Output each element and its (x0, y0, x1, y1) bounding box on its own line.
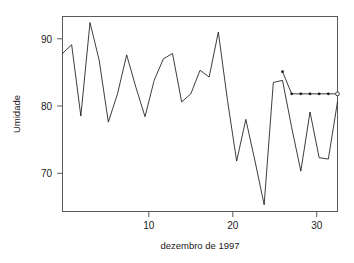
forecast-point-filled (327, 92, 330, 95)
forecast-point-filled (290, 92, 293, 95)
forecast-point-filled (318, 92, 321, 95)
forecast-point-filled (299, 92, 302, 95)
x-tick-label-30: 30 (311, 220, 323, 231)
x-axis-title: dezembro de 1997 (160, 240, 239, 251)
plot-background (0, 0, 354, 263)
forecast-point-filled (309, 92, 312, 95)
chart-figure: 90 80 70 10 20 30 dezembro de 1997 Umida… (0, 0, 354, 263)
umidade-time-series-plot: 90 80 70 10 20 30 dezembro de 1997 Umida… (0, 0, 354, 263)
x-tick-label-20: 20 (227, 220, 239, 231)
y-tick-label-80: 80 (41, 101, 53, 112)
x-tick-label-10: 10 (143, 220, 155, 231)
forecast-point-filled (281, 70, 284, 73)
y-axis-title: Umidade (11, 95, 22, 133)
y-tick-label-70: 70 (41, 168, 53, 179)
y-tick-label-90: 90 (41, 34, 53, 45)
forecast-point-open (336, 92, 340, 96)
